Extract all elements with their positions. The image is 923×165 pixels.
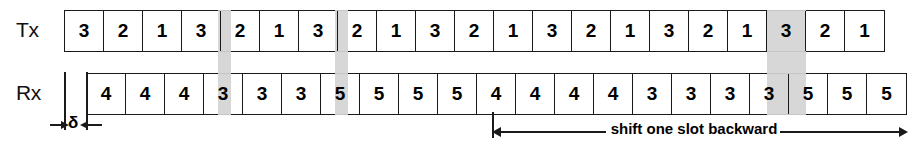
tx-slot: 3 bbox=[533, 11, 572, 51]
rx-slot: 3 bbox=[750, 74, 789, 114]
rx-slot: 4 bbox=[87, 74, 126, 114]
tx-slot: 3 bbox=[299, 11, 338, 51]
rx-slot: 3 bbox=[282, 74, 321, 114]
tx-slot: 3 bbox=[182, 11, 221, 51]
rx-slot: 3 bbox=[204, 74, 243, 114]
tx-slot: 1 bbox=[494, 11, 533, 51]
delta-label: δ bbox=[68, 114, 78, 131]
shift-label: shift one slot backward bbox=[610, 121, 778, 136]
tx-slot: 1 bbox=[728, 11, 767, 51]
shift-annotation: shift one slot backward bbox=[492, 126, 908, 150]
tx-slot: 1 bbox=[611, 11, 650, 51]
rx-slot: 3 bbox=[711, 74, 750, 114]
shift-line-right bbox=[780, 131, 902, 133]
rx-slot: 4 bbox=[516, 74, 555, 114]
rx-slot: 5 bbox=[789, 74, 828, 114]
tx-slot: 2 bbox=[806, 11, 845, 51]
rx-slot: 4 bbox=[165, 74, 204, 114]
tx-row-label: Tx bbox=[16, 19, 39, 40]
rx-slot: 4 bbox=[594, 74, 633, 114]
tx-slot: 2 bbox=[689, 11, 728, 51]
rx-slot: 5 bbox=[360, 74, 399, 114]
delta-arm-right bbox=[87, 124, 102, 126]
tx-slot: 1 bbox=[143, 11, 182, 51]
tx-slot: 2 bbox=[338, 11, 377, 51]
shift-line-left bbox=[498, 131, 606, 133]
tx-slot-row: 321321321321321321321 bbox=[64, 10, 885, 52]
slot-timing-diagram: Tx 321321321321321321321 Rx 444333555544… bbox=[0, 0, 923, 165]
delta-annotation: δ bbox=[50, 118, 120, 148]
rx-slot: 3 bbox=[672, 74, 711, 114]
shift-arrowhead-right-icon bbox=[899, 127, 908, 137]
tx-slot: 3 bbox=[65, 11, 104, 51]
delta-arrowhead-right-icon bbox=[80, 121, 88, 129]
tx-slot: 1 bbox=[377, 11, 416, 51]
tx-slot: 3 bbox=[650, 11, 689, 51]
rx-slot-row: 444333555544443333555 bbox=[86, 73, 907, 115]
rx-slot: 4 bbox=[126, 74, 165, 114]
rx-slot: 5 bbox=[828, 74, 867, 114]
tx-slot: 1 bbox=[845, 11, 884, 51]
tx-slot: 3 bbox=[416, 11, 455, 51]
rx-slot: 5 bbox=[321, 74, 360, 114]
tx-slot: 3 bbox=[767, 11, 806, 51]
rx-slot: 5 bbox=[438, 74, 477, 114]
rx-slot: 4 bbox=[477, 74, 516, 114]
tx-slot: 1 bbox=[260, 11, 299, 51]
tx-slot: 2 bbox=[572, 11, 611, 51]
rx-slot: 3 bbox=[633, 74, 672, 114]
rx-slot: 5 bbox=[399, 74, 438, 114]
tx-slot: 2 bbox=[104, 11, 143, 51]
rx-slot: 4 bbox=[555, 74, 594, 114]
tx-slot: 2 bbox=[455, 11, 494, 51]
rx-row-label: Rx bbox=[16, 82, 41, 103]
rx-slot: 3 bbox=[243, 74, 282, 114]
rx-slot: 5 bbox=[867, 74, 906, 114]
tx-slot: 2 bbox=[221, 11, 260, 51]
